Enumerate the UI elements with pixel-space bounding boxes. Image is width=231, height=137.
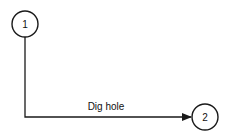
node-label: 2 xyxy=(202,112,208,123)
node-1: 1 xyxy=(12,11,38,37)
edge-label: Dig hole xyxy=(88,101,125,112)
node-label: 1 xyxy=(22,19,28,30)
edge-dig-hole: Dig hole xyxy=(25,37,191,117)
network-diagram: Dig hole 1 2 xyxy=(0,0,231,137)
node-2: 2 xyxy=(192,104,218,130)
